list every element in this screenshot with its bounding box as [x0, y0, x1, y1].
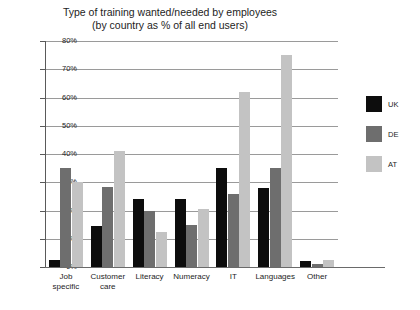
x-axis-label-line: care	[81, 282, 135, 292]
bar	[216, 168, 227, 267]
bar-group	[49, 41, 83, 267]
chart-title: Type of training wanted/needed by employ…	[0, 6, 340, 19]
legend-label: AT	[388, 160, 397, 169]
bar	[312, 264, 323, 267]
legend-swatch	[366, 156, 382, 172]
bar	[258, 188, 269, 267]
bars-layer	[45, 41, 338, 267]
x-axis-label-line: Other	[290, 272, 344, 282]
bar	[49, 260, 60, 267]
bar-group	[300, 41, 334, 267]
x-axis-label: Other	[290, 272, 344, 282]
bar	[60, 168, 71, 267]
legend-swatch	[366, 96, 382, 112]
bar	[156, 232, 167, 267]
bar-group	[175, 41, 209, 267]
x-axis-line	[45, 267, 385, 268]
bar-group	[258, 41, 292, 267]
bar	[72, 182, 83, 267]
bar	[175, 199, 186, 267]
bar	[198, 209, 209, 267]
bar	[281, 55, 292, 267]
bar-group	[91, 41, 125, 267]
bar	[300, 261, 311, 267]
bar	[102, 187, 113, 268]
bar	[323, 260, 334, 267]
bar	[239, 92, 250, 267]
chart-subtitle: (by country as % of all end users)	[0, 19, 340, 32]
bar-chart: Type of training wanted/needed by employ…	[0, 0, 420, 310]
bar-group	[133, 41, 167, 267]
bar	[186, 225, 197, 267]
legend-swatch	[366, 126, 382, 142]
x-axis-category-labels: JobspecificCustomercareLiteracyNumeracyI…	[45, 272, 338, 306]
bar	[144, 211, 155, 268]
bar	[270, 168, 281, 267]
bar	[91, 226, 102, 267]
bar-group	[216, 41, 250, 267]
chart-title-block: Type of training wanted/needed by employ…	[0, 6, 340, 32]
bar	[114, 151, 125, 267]
legend-label: UK	[388, 100, 398, 109]
bar	[228, 194, 239, 267]
legend-label: DE	[388, 130, 398, 139]
bar	[133, 199, 144, 267]
